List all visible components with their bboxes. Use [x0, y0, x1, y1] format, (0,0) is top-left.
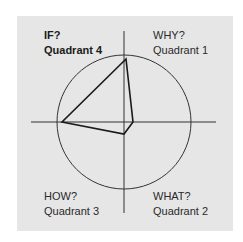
- quadrant-1-name: Quadrant 1: [153, 43, 208, 58]
- quadrant-1-question: WHY?: [153, 28, 208, 43]
- quadrant-3-name: Quadrant 3: [44, 204, 99, 219]
- quadrant-2-name: Quadrant 2: [153, 204, 208, 219]
- quadrant-4-name: Quadrant 4: [44, 43, 102, 58]
- quadrant-4-question: IF?: [44, 28, 102, 43]
- quadrant-1-label: WHY? Quadrant 1: [153, 28, 208, 58]
- quadrant-2-label: WHAT? Quadrant 2: [153, 189, 208, 219]
- diagram-canvas: IF? Quadrant 4 WHY? Quadrant 1 HOW? Quad…: [0, 0, 243, 242]
- profile-polygon: [62, 59, 133, 134]
- quadrant-3-label: HOW? Quadrant 3: [44, 189, 99, 219]
- quadrant-3-question: HOW?: [44, 189, 99, 204]
- quadrant-2-question: WHAT?: [153, 189, 208, 204]
- quadrant-4-label: IF? Quadrant 4: [44, 28, 102, 58]
